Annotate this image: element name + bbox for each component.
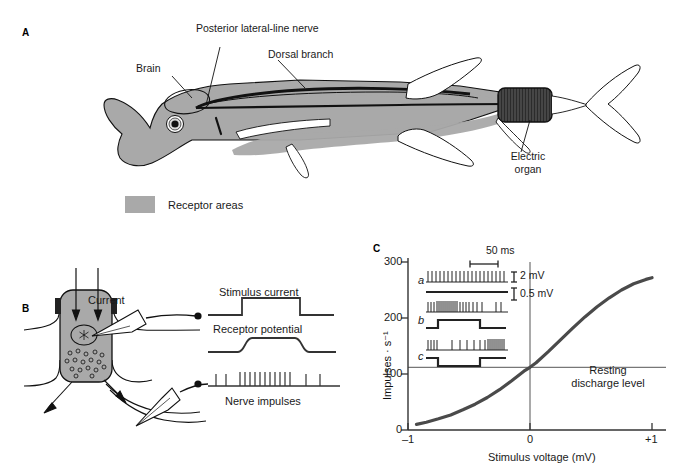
legend-receptor-areas-swatch bbox=[125, 196, 155, 213]
inset-time-bar-label: 50 ms bbox=[486, 244, 515, 257]
inset-label-c: c bbox=[418, 350, 424, 363]
panel-a-fish-diagram bbox=[0, 0, 680, 240]
inset-label-b: b bbox=[418, 314, 424, 327]
inset-time-scale-bar bbox=[470, 261, 498, 268]
label-receptor-potential: Receptor potential bbox=[213, 323, 302, 336]
chart-ytick-100: 100 bbox=[384, 367, 402, 380]
legend-receptor-areas-label: Receptor areas bbox=[168, 199, 243, 212]
inset-label-a: a bbox=[418, 274, 424, 287]
label-brain: Brain bbox=[136, 62, 161, 75]
inset-trace-b bbox=[426, 301, 508, 328]
chart-xtick-minus1: –1 bbox=[402, 433, 414, 446]
chart-ytick-300: 300 bbox=[384, 255, 402, 268]
inset-scale-05mv-label: 0.5 mV bbox=[520, 287, 553, 300]
resting-discharge-line-1: Resting bbox=[589, 364, 626, 376]
chart-x-axis-title: Stimulus voltage (mV) bbox=[488, 451, 596, 464]
chart-xtick-plus1: +1 bbox=[645, 433, 658, 446]
label-current: Current bbox=[88, 294, 125, 307]
label-dorsal-branch: Dorsal branch bbox=[268, 48, 333, 61]
chart-xtick-0: 0 bbox=[527, 433, 533, 446]
label-electric-organ: Electric organ bbox=[500, 150, 556, 176]
inset-amplitude-scale-bars bbox=[511, 272, 517, 300]
inset-trace-a bbox=[426, 271, 508, 292]
inset-trace-c bbox=[426, 339, 508, 366]
electric-organ-line-2: organ bbox=[515, 163, 542, 175]
label-posterior-lateral-line-nerve: Posterior lateral-line nerve bbox=[196, 22, 319, 35]
resting-discharge-line-2: discharge level bbox=[571, 377, 644, 389]
chart-ytick-200: 200 bbox=[384, 311, 402, 324]
label-nerve-impulses: Nerve impulses bbox=[225, 395, 301, 408]
figure-root: A bbox=[0, 0, 680, 476]
electric-organ-line-1: Electric bbox=[511, 150, 545, 162]
inset-scale-2mv-label: 2 mV bbox=[520, 269, 545, 282]
label-stimulus-current: Stimulus current bbox=[219, 286, 298, 299]
panel-b-receptor-cell-diagram bbox=[0, 240, 370, 476]
resting-discharge-level-label: Resting discharge level bbox=[556, 364, 660, 391]
